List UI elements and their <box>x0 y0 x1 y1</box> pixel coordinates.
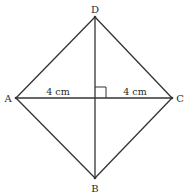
vertex-b-dot <box>94 177 97 180</box>
vertex-label-d: D <box>91 4 99 15</box>
measurement-right: 4 cm <box>123 86 146 97</box>
vertex-c-dot <box>171 97 174 100</box>
side-ab <box>16 98 95 178</box>
rhombus-diagram: D A C B 4 cm 4 cm <box>0 0 187 194</box>
vertex-label-b: B <box>91 183 98 194</box>
right-angle-marker <box>95 87 106 98</box>
vertex-a-dot <box>15 97 18 100</box>
vertex-label-a: A <box>3 93 12 104</box>
measurement-left: 4 cm <box>46 86 69 97</box>
side-cb <box>95 98 172 178</box>
vertex-d-dot <box>94 16 97 19</box>
vertex-label-c: C <box>176 93 184 104</box>
